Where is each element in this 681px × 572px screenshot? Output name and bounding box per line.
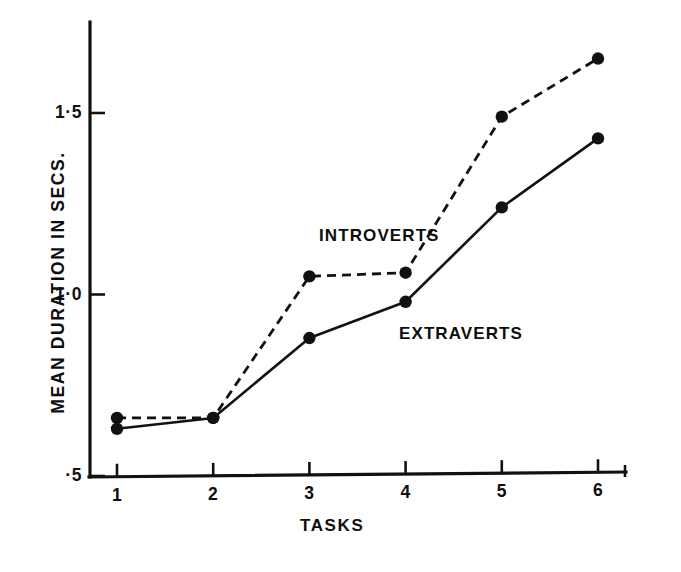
series-label-introverts: INTROVERTS xyxy=(319,226,440,246)
data-point xyxy=(111,423,123,435)
y-tick-label-0-5: ·5 xyxy=(65,465,82,486)
data-point xyxy=(303,270,315,282)
series-line-extraverts xyxy=(117,138,598,428)
data-point xyxy=(207,412,219,424)
data-point xyxy=(111,412,123,424)
data-point xyxy=(399,267,411,279)
series-extraverts xyxy=(111,132,604,435)
x-tick-label-2: 2 xyxy=(198,484,228,505)
y-tick-wrap: 1·5 xyxy=(26,102,82,124)
data-point xyxy=(592,52,604,64)
chart-figure: MEAN DURATION IN SECS. TASKS 1·5 1·0 ·5 … xyxy=(0,0,681,572)
data-point xyxy=(496,201,508,213)
x-tick-label-3: 3 xyxy=(294,483,324,504)
x-tick-label-6: 6 xyxy=(583,480,613,501)
x-tick-label-4: 4 xyxy=(391,482,421,503)
y-axis-ticks xyxy=(90,113,105,476)
series-label-extraverts: EXTRAVERTS xyxy=(399,324,523,344)
data-point xyxy=(496,110,508,122)
data-point xyxy=(399,296,411,308)
y-tick-label-1-0: 1·0 xyxy=(55,284,82,305)
data-point xyxy=(592,132,604,144)
y-tick-wrap: ·5 xyxy=(26,465,82,487)
x-tick-label-1: 1 xyxy=(102,485,132,506)
x-tick-label-5: 5 xyxy=(487,481,517,502)
y-tick-wrap: 1·0 xyxy=(26,284,82,306)
data-point xyxy=(303,332,315,344)
y-axis-title: MEAN DURATION IN SECS. xyxy=(48,143,69,423)
y-tick-label-1-5: 1·5 xyxy=(55,102,82,123)
axis-lines xyxy=(89,22,626,477)
x-axis-title: TASKS xyxy=(300,516,364,536)
